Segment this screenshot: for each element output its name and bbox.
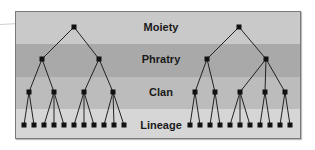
tree-graph xyxy=(0,0,315,150)
lineage-node xyxy=(288,123,293,128)
tree-edge xyxy=(99,59,113,92)
lineage-node xyxy=(62,123,67,128)
lineage-node xyxy=(102,123,107,128)
lineage-node xyxy=(122,123,127,128)
clan-node xyxy=(238,90,243,95)
tree-edge xyxy=(215,92,220,125)
lineage-node xyxy=(218,123,223,128)
tree-edge xyxy=(190,92,195,125)
tree-edge xyxy=(207,59,215,92)
tree-edge xyxy=(54,92,64,125)
tree-edge xyxy=(266,59,285,92)
tree-edge xyxy=(195,92,200,125)
tree-edge xyxy=(29,59,42,92)
lineage-node xyxy=(32,123,37,128)
tree-edge xyxy=(265,59,266,92)
lineage-node xyxy=(112,123,117,128)
tree-edge xyxy=(29,92,34,125)
tree-edge xyxy=(239,27,266,59)
tree-edge xyxy=(42,27,74,59)
kinship-diagram: Moiety Phratry Clan Lineage xyxy=(0,0,315,150)
tree-edge xyxy=(24,92,29,125)
tree-edge xyxy=(280,92,285,125)
lineage-node xyxy=(198,123,203,128)
lineage-node xyxy=(228,123,233,128)
clan-node xyxy=(52,90,57,95)
phratry-node xyxy=(264,57,269,62)
lineage-node xyxy=(268,123,273,128)
tree-edge xyxy=(230,92,240,125)
tree-edge xyxy=(84,92,94,125)
clan-node xyxy=(263,90,268,95)
lineage-node xyxy=(72,123,77,128)
tree-edge xyxy=(44,92,54,125)
lineage-node xyxy=(42,123,47,128)
tree-edge xyxy=(113,92,124,125)
tree-edge xyxy=(74,92,84,125)
lineage-node xyxy=(208,123,213,128)
tree-edge xyxy=(207,27,239,59)
tree-edge xyxy=(42,59,54,92)
phratry-node xyxy=(40,57,45,62)
clan-node xyxy=(27,90,32,95)
clan-node xyxy=(82,90,87,95)
tree-edge xyxy=(260,92,265,125)
tree-edge xyxy=(240,59,266,92)
tree-edge xyxy=(240,92,250,125)
moiety-node xyxy=(237,25,242,30)
lineage-node xyxy=(248,123,253,128)
lineage-node xyxy=(82,123,87,128)
tree-edge xyxy=(195,59,207,92)
lineage-node xyxy=(258,123,263,128)
clan-node xyxy=(111,90,116,95)
lineage-node xyxy=(92,123,97,128)
tree-edge xyxy=(285,92,290,125)
lineage-node xyxy=(52,123,57,128)
clan-node xyxy=(283,90,288,95)
clan-node xyxy=(213,90,218,95)
tree-edge xyxy=(74,27,99,59)
tree-edge xyxy=(210,92,215,125)
tree-edge xyxy=(104,92,113,125)
lineage-node xyxy=(278,123,283,128)
phratry-node xyxy=(205,57,210,62)
lineage-node xyxy=(238,123,243,128)
lineage-node xyxy=(22,123,27,128)
phratry-node xyxy=(97,57,102,62)
clan-node xyxy=(193,90,198,95)
lineage-node xyxy=(188,123,193,128)
tree-edge xyxy=(113,92,114,125)
tree-edge xyxy=(84,59,99,92)
moiety-node xyxy=(72,25,77,30)
tree-edge xyxy=(265,92,270,125)
